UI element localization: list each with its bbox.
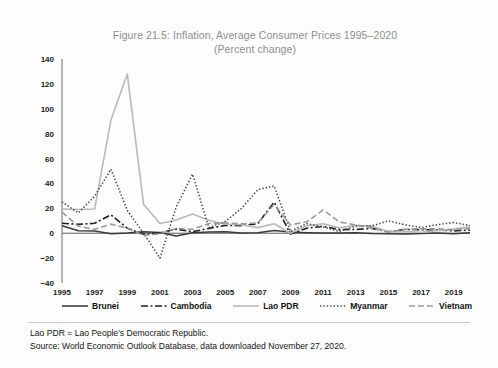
footnote-source: Source: World Economic Outlook Database,… — [30, 340, 470, 353]
x-axis-tick-12: 2019 — [445, 288, 463, 297]
legend-item-cambodia[interactable]: Cambodia — [141, 301, 212, 311]
y-axis-tick-6: 20 — [45, 204, 54, 213]
legend-label: Cambodia — [171, 301, 212, 311]
y-axis-tick-5: 40 — [45, 179, 54, 188]
legend-item-vietnam[interactable]: Vietnam — [409, 301, 472, 311]
legend-item-brunei[interactable]: Brunei — [62, 301, 119, 311]
line-dashed-icon — [409, 302, 435, 310]
x-axis-tick-2: 1999 — [118, 288, 136, 297]
y-axis-tick-labels: 140120100806040200−20−40 — [40, 55, 54, 288]
line-solid-light-icon — [233, 302, 259, 310]
y-axis-tick-4: 60 — [45, 155, 54, 164]
y-axis-tick-9: −40 — [40, 279, 54, 288]
x-axis-tick-4: 2003 — [184, 288, 202, 297]
y-axis-tick-8: −20 — [40, 254, 54, 263]
x-axis-tick-labels: 1995199719992001200320052007200920112013… — [53, 288, 463, 297]
legend-label: Lao PDR — [263, 301, 298, 311]
x-axis-tick-7: 2009 — [282, 288, 300, 297]
series-line-lao-pdr — [62, 74, 470, 233]
x-axis-tick-1: 1997 — [86, 288, 104, 297]
legend-label: Vietnam — [439, 301, 472, 311]
y-axis-tick-3: 80 — [45, 130, 54, 139]
line-dotted-icon — [320, 302, 346, 310]
y-axis-tick-0: 140 — [41, 55, 55, 64]
x-axis-tick-6: 2007 — [249, 288, 267, 297]
line-dashdot-icon — [141, 302, 167, 310]
legend-label: Myanmar — [350, 301, 387, 311]
y-axis-tick-1: 120 — [41, 80, 55, 89]
figure-container: Figure 21.5: Inflation, Average Consumer… — [0, 0, 498, 368]
footnote-divider — [28, 322, 470, 323]
x-axis-tick-9: 2013 — [347, 288, 365, 297]
figure-footnotes: Lao PDR = Lao People's Democratic Republ… — [30, 327, 470, 353]
y-axis-tick-2: 100 — [41, 105, 55, 114]
line-solid-dark-icon — [62, 302, 88, 310]
y-axis-tick-7: 0 — [50, 229, 55, 238]
data-series-group — [62, 74, 470, 258]
footnote-definition: Lao PDR = Lao People's Democratic Republ… — [30, 327, 470, 340]
chart-legend: BruneiCambodiaLao PDRMyanmarVietnam — [62, 297, 472, 315]
x-axis-tick-5: 2005 — [216, 288, 234, 297]
x-axis-tick-0: 1995 — [53, 288, 71, 297]
x-axis-tick-8: 2011 — [314, 288, 332, 297]
x-axis-tick-10: 2015 — [380, 288, 398, 297]
series-line-cambodia — [62, 202, 470, 234]
line-chart-plot: 140120100806040200−20−40 199519971999200… — [0, 0, 498, 300]
x-axis-tick-3: 2001 — [151, 288, 169, 297]
x-axis-tick-11: 2017 — [412, 288, 430, 297]
legend-label: Brunei — [92, 301, 119, 311]
legend-item-myanmar[interactable]: Myanmar — [320, 301, 387, 311]
legend-item-lao-pdr[interactable]: Lao PDR — [233, 301, 298, 311]
